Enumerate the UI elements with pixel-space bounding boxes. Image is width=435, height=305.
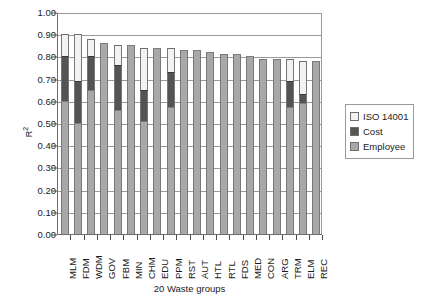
r2-stacked-bar-chart: R2 1.000.900.800.700.600.500.400.300.200…	[0, 0, 435, 305]
x-tick-label: MLM	[68, 258, 78, 279]
plot-area	[57, 13, 322, 235]
chart-legend: ISO 14001CostEmployee	[345, 104, 414, 159]
bar-group	[87, 39, 95, 234]
bar-group	[259, 59, 267, 234]
bar-segment-employee	[220, 54, 228, 234]
bar-segment-iso-14001	[87, 39, 95, 57]
bar-segment-employee	[259, 59, 267, 234]
bar-group	[273, 59, 281, 234]
y-tick-mark	[52, 212, 57, 213]
x-tick-mark	[137, 235, 138, 240]
x-tick-label: EDU	[160, 259, 170, 279]
x-tick-label: TRM	[293, 258, 303, 279]
x-tick-label: GOV	[107, 258, 117, 279]
x-tick-label: RTL	[227, 261, 237, 279]
bar-group	[167, 48, 175, 234]
bar-segment-employee	[312, 61, 320, 234]
legend-swatch-cost	[350, 127, 359, 136]
x-tick-label: REC	[319, 259, 329, 279]
bar-group	[233, 54, 241, 234]
bar-segment-cost	[167, 72, 175, 108]
bar-segment-employee	[180, 50, 188, 234]
x-tick-label: MED	[253, 258, 263, 279]
bar-segment-employee	[206, 52, 214, 234]
x-axis-title: 20 Waste groups	[57, 283, 322, 294]
legend-item: ISO 14001	[350, 109, 408, 124]
bar-group	[299, 61, 307, 234]
bar-segment-employee	[286, 107, 294, 234]
bar-segment-iso-14001	[114, 45, 122, 65]
x-tick-label: FDS	[240, 260, 250, 279]
x-axis-tick-labels: MLMFDMWDMGOVFBMMINCHMEDUPPMRSTAUTHTLRTLF…	[57, 241, 322, 281]
bar-segment-iso-14001	[286, 59, 294, 81]
x-tick-mark	[216, 235, 217, 240]
bar-segment-employee	[167, 107, 175, 234]
x-tick-label: ELM	[306, 259, 316, 279]
y-tick-mark	[52, 235, 57, 236]
bar-segment-employee	[61, 101, 69, 234]
bar-group	[220, 54, 228, 234]
x-tick-mark	[150, 235, 151, 240]
y-tick-mark	[52, 35, 57, 36]
bar-segment-cost	[114, 65, 122, 109]
bar-segment-iso-14001	[61, 34, 69, 56]
x-tick-label: PPM	[174, 258, 184, 279]
bar-segment-cost	[87, 56, 95, 89]
bar-segment-employee	[153, 48, 161, 234]
y-tick-mark	[52, 79, 57, 80]
x-tick-mark	[322, 235, 323, 240]
legend-swatch-iso-14001	[350, 112, 359, 121]
bar-group	[193, 50, 201, 234]
x-tick-label: ARG	[280, 258, 290, 279]
y-tick-mark	[52, 101, 57, 102]
x-tick-label: AUT	[200, 260, 210, 279]
y-tick-mark	[52, 146, 57, 147]
bar-segment-employee	[74, 123, 82, 234]
bar-group	[74, 34, 82, 234]
x-tick-mark	[243, 235, 244, 240]
bar-segment-iso-14001	[74, 34, 82, 81]
legend-swatch-employee	[350, 142, 359, 151]
bar-group	[61, 34, 69, 234]
x-tick-mark	[123, 235, 124, 240]
x-tick-mark	[190, 235, 191, 240]
bar-segment-cost	[74, 81, 82, 123]
bar-group	[153, 48, 161, 234]
legend-item: Employee	[350, 139, 408, 154]
legend-label: ISO 14001	[363, 112, 408, 122]
x-tick-label: FBM	[121, 259, 131, 279]
bar-group	[114, 45, 122, 234]
bar-segment-employee	[246, 56, 254, 234]
x-tick-label: CON	[266, 258, 276, 279]
x-tick-mark	[97, 235, 98, 240]
legend-item: Cost	[350, 124, 408, 139]
bar-segment-employee	[193, 50, 201, 234]
bar-segment-iso-14001	[299, 61, 307, 94]
x-tick-mark	[203, 235, 204, 240]
bar-group	[100, 43, 108, 234]
x-tick-label: CHM	[147, 257, 157, 279]
bar-segment-employee	[87, 90, 95, 234]
bar-segment-iso-14001	[167, 48, 175, 72]
bar-segment-cost	[61, 56, 69, 100]
x-tick-mark	[110, 235, 111, 240]
legend-label: Cost	[363, 127, 383, 137]
x-tick-mark	[256, 235, 257, 240]
y-tick-mark	[52, 13, 57, 14]
bars-layer	[58, 13, 322, 234]
bar-group	[206, 52, 214, 234]
bar-segment-employee	[114, 110, 122, 234]
x-tick-mark	[309, 235, 310, 240]
y-axis-tick-labels: 1.000.900.800.700.600.500.400.300.200.10…	[20, 13, 56, 235]
bar-group	[140, 48, 148, 234]
x-tick-label: RST	[187, 260, 197, 279]
x-tick-mark	[282, 235, 283, 240]
bar-segment-cost	[286, 81, 294, 108]
x-tick-mark	[70, 235, 71, 240]
x-tick-mark	[229, 235, 230, 240]
bar-segment-cost	[299, 94, 307, 103]
x-tick-label: WDM	[94, 255, 104, 279]
x-tick-label: FDM	[81, 258, 91, 279]
bar-group	[180, 50, 188, 234]
x-tick-mark	[296, 235, 297, 240]
